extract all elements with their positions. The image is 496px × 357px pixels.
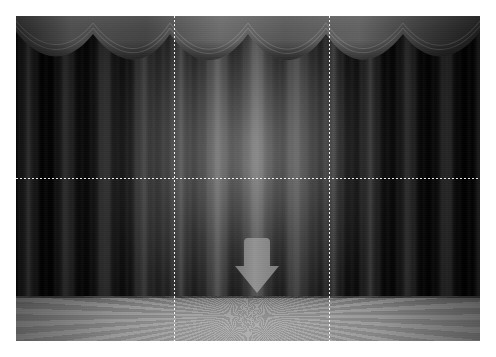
stage-floor [16, 296, 480, 341]
stage-screenshot [0, 0, 496, 357]
floor-front-edge [16, 296, 480, 298]
floor-shading [16, 296, 480, 341]
photo-frame [16, 16, 480, 341]
down-arrow-icon [234, 236, 280, 296]
valance-swag [16, 16, 480, 74]
